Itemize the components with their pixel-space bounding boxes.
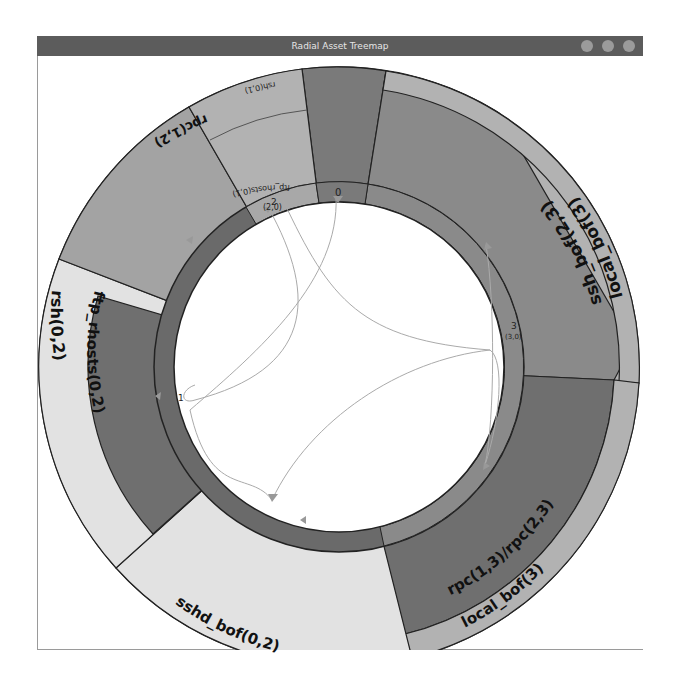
treemap-rings bbox=[39, 67, 640, 667]
host-label-1: 1 bbox=[178, 393, 184, 403]
host-label-3-sub: (3,0) bbox=[505, 333, 522, 341]
host-label-0: 0 bbox=[335, 187, 341, 198]
radial-treemap: 0 2 (2,0) 3 (3,0) 1 ssh_bof(2,3) local_b… bbox=[0, 0, 678, 682]
host-label-2-sub: (2,0) bbox=[263, 203, 282, 212]
host-ring-0[interactable] bbox=[316, 182, 368, 204]
inner-disc bbox=[174, 202, 504, 532]
host-label-3: 3 bbox=[511, 321, 517, 331]
